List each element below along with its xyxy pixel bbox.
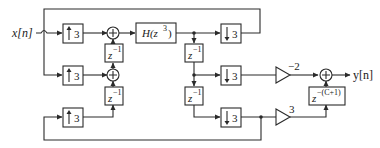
upsampler-1: 3 (63, 24, 83, 43)
downsampler-1: 3 (221, 24, 241, 43)
block-diagram: x[n] 3 3 3 z −1 z −1 (0, 0, 380, 148)
delay-right-bottom: z −1 (185, 87, 203, 105)
svg-text:3: 3 (74, 112, 80, 124)
downsampler-3: 3 (221, 108, 241, 127)
delay-right-top: z −1 (185, 44, 203, 62)
svg-text:−1: −1 (193, 88, 202, 97)
svg-text:3: 3 (232, 112, 238, 124)
junction-dot (192, 73, 196, 77)
gain-minus2: −2 (276, 60, 300, 83)
downsampler-2: 3 (221, 66, 241, 85)
adder-output (320, 69, 332, 81)
svg-text:): ) (168, 27, 172, 40)
svg-text:−1: −1 (193, 45, 202, 54)
junction-dot (259, 115, 263, 119)
wire-delay-down3 (194, 104, 220, 117)
input-wire (36, 31, 62, 34)
wire-up3-delay (83, 105, 113, 117)
gain-3: 3 (276, 103, 295, 125)
junction-dot (192, 31, 196, 35)
svg-text:H(z: H(z (141, 27, 159, 40)
triangle-gain-icon (276, 109, 290, 125)
delay-left-bottom: z −1 (105, 87, 123, 105)
svg-text:−1: −1 (113, 88, 122, 97)
filter-block: H(z 3 ) (136, 23, 176, 43)
svg-text:3: 3 (74, 70, 80, 82)
output-label: y[n] (353, 68, 373, 82)
delay-left-top: z −1 (105, 44, 123, 62)
svg-text:−1: −1 (113, 45, 122, 54)
svg-text:−(C+1): −(C+1) (317, 88, 341, 97)
delay-output: z −(C+1) (309, 87, 345, 105)
input-label: x[n] (11, 26, 33, 40)
svg-text:3: 3 (74, 28, 80, 40)
svg-text:3: 3 (163, 24, 167, 33)
svg-text:−2: −2 (288, 60, 300, 72)
svg-text:3: 3 (289, 103, 295, 115)
upsampler-3: 3 (63, 108, 83, 127)
svg-text:3: 3 (232, 28, 238, 40)
svg-text:3: 3 (232, 70, 238, 82)
adder-2 (107, 69, 119, 81)
wire-gain3-delay (290, 105, 326, 117)
adder-1 (107, 27, 119, 39)
upsampler-2: 3 (63, 66, 83, 85)
